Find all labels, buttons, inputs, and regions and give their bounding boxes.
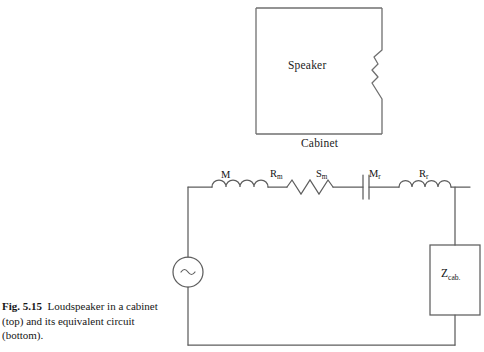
cabinet-drawing [250,0,390,155]
component-label-m: M [221,170,230,181]
label-mr-sub: r [378,173,380,181]
figure-root: Speaker Cabinet [0,0,484,352]
speaker-cone-icon [372,8,382,134]
label-rm-main: R [270,168,277,179]
equivalent-circuit-diagram: M Rm Sm Mr Rr Zcab. [150,160,484,352]
figure-number: Fig. 5.15 [2,300,42,312]
label-sm-sub: m [322,173,328,181]
component-label-rr: Rr [419,169,428,180]
figure-caption: Fig. 5.15 Loudspeaker in a cabinet (top)… [2,299,174,343]
impedance-label: Zcab. [441,268,460,280]
label-mr-main: M [369,168,378,179]
inductor-m-icon [212,180,268,187]
circuit-drawing [150,160,484,352]
inductor-mr-icon [399,181,451,188]
component-label-mr: Mr [369,169,381,180]
component-label-rm: Rm [270,169,283,180]
label-m-main: M [221,169,230,180]
resistor-rm-icon [287,180,333,194]
loudspeaker-cabinet-diagram: Speaker Cabinet [250,0,390,155]
label-z-sub: cab. [448,273,460,282]
label-rm-sub: m [277,173,283,181]
label-sm-main: S [316,168,322,179]
label-rr-main: R [419,168,426,179]
ac-source-tilde-icon [181,270,195,275]
component-label-sm: Sm [316,169,327,180]
label-z-main: Z [441,267,448,279]
speaker-label: Speaker [288,59,326,71]
cabinet-label: Cabinet [301,137,338,149]
